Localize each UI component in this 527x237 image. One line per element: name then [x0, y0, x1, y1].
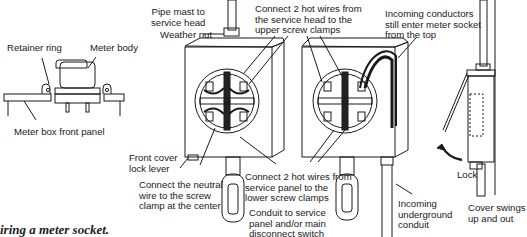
- label-line: Pipe mast to: [151, 7, 205, 18]
- label-line: clamp at the center: [139, 201, 223, 212]
- label-front-cover-lock-lever: Front cover lock lever: [129, 153, 178, 174]
- label-neutral-wire: Connect the neutral wire to the screw cl…: [139, 180, 223, 212]
- label-meter-body: Meter body: [90, 43, 138, 54]
- label-incoming-conductors: Incoming conductors still enter meter so…: [385, 9, 481, 41]
- label-meter-box-front-panel: Meter box front panel: [14, 127, 105, 138]
- label-line: Connect the neutral: [139, 180, 223, 191]
- label-line: lower screw clamps: [245, 193, 352, 204]
- meter-socket-wiring-diagram: Retainer ring Meter body Meter box front…: [0, 0, 527, 237]
- label-retainer-ring: Retainer ring: [7, 43, 62, 54]
- label-line: Incoming conductors: [385, 9, 481, 20]
- label-line: upper screw clamps: [255, 25, 362, 36]
- label-line: up and out: [468, 214, 526, 225]
- label-line: Incoming: [398, 199, 452, 210]
- label-line: conduit: [398, 220, 452, 231]
- label-conduit-to-service-panel: Conduit to service panel and/or main dis…: [249, 208, 326, 237]
- label-line: from the top: [385, 30, 481, 41]
- label-line: Cover swings: [468, 203, 526, 214]
- label-line: disconnect switch: [249, 229, 326, 237]
- label-lock: Lock: [457, 170, 477, 181]
- label-line: Connect 2 hot wires from: [255, 4, 362, 15]
- label-upper-screw-clamps: Connect 2 hot wires from the service hea…: [255, 4, 362, 36]
- label-lower-screw-clamps: Connect 2 hot wires from service panel t…: [245, 172, 352, 204]
- label-line: Front cover: [129, 153, 178, 164]
- label-incoming-underground-conduit: Incoming underground conduit: [398, 199, 452, 231]
- label-line: lock lever: [129, 164, 178, 175]
- label-pipe-mast: Pipe mast to service head: [151, 7, 205, 28]
- label-line: service head: [151, 18, 205, 29]
- figure-caption: iring a meter socket.: [0, 222, 109, 237]
- meter-inset-illustration: [4, 57, 124, 120]
- label-line: Conduit to service: [249, 208, 326, 219]
- label-line: Connect 2 hot wires from: [245, 172, 352, 183]
- label-weather-nut: Weather nut: [160, 30, 212, 41]
- label-cover-swings: Cover swings up and out: [468, 203, 526, 224]
